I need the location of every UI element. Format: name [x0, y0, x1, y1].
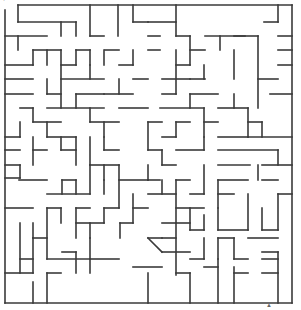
maze-board [0, 0, 301, 310]
maze-walls [5, 5, 292, 303]
bottom-right-mark: ▲ [266, 302, 272, 308]
maze-wall [148, 238, 162, 252]
top-left-mark: · [3, 0, 5, 3]
